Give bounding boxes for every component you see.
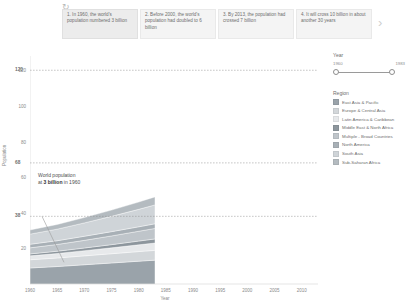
story-card[interactable]: 3. By 2013, the population had crossed 7… <box>218 9 294 39</box>
legend-swatch <box>333 116 339 122</box>
annotation-line2-suffix: in 1960 <box>62 179 80 185</box>
slider-track[interactable] <box>336 72 392 73</box>
legend-swatch <box>333 99 339 105</box>
x-tick-label: 2010 <box>292 288 312 293</box>
annotation-note: World population at 3 billion in 1960 <box>38 172 122 186</box>
story-card[interactable]: 4. It will cross 10 billion in about ano… <box>296 9 372 39</box>
x-tick-label: 1975 <box>102 288 122 293</box>
legend-item[interactable]: South Asia <box>333 151 406 157</box>
x-tick-label: 1970 <box>74 288 94 293</box>
x-tick-label: 2000 <box>237 288 257 293</box>
y-tick-label: 100 <box>8 103 26 108</box>
x-tick-label: 1990 <box>183 288 203 293</box>
plot-area <box>30 56 318 284</box>
legend-label: Middle East & North Africa <box>342 125 393 130</box>
legend-label: Multiple - Broad Countries <box>342 134 393 139</box>
legend-swatch <box>333 133 339 139</box>
slider-handle-max[interactable] <box>389 69 395 75</box>
story-card-text: 3. By 2013, the population had crossed 7… <box>223 12 285 23</box>
x-tick-label: 1980 <box>129 288 149 293</box>
y-tick-label: 20 <box>8 246 26 251</box>
legend-item[interactable]: Middle East & North Africa <box>333 125 406 131</box>
x-tick-label: 1985 <box>156 288 176 293</box>
year-range-slider[interactable]: 1960 1983 <box>333 61 406 83</box>
legend-swatch <box>333 108 339 114</box>
year-max-label: 1983 <box>395 61 405 66</box>
population-area-chart: Population World population at 3 billion… <box>0 46 330 304</box>
y-axis-title: Population <box>2 145 7 166</box>
legend-swatch <box>333 151 339 157</box>
story-card[interactable]: 2. Before 2000, the world's population h… <box>140 9 216 39</box>
chevron-right-icon[interactable]: › <box>378 16 382 29</box>
x-axis-title: Year <box>0 296 330 301</box>
legend-item[interactable]: Sub-Saharan Africa <box>333 159 406 165</box>
controls-panel: Year 1960 1983 Region East Asia & Pacifi… <box>333 52 406 168</box>
region-legend-title: Region <box>333 90 406 96</box>
y-tick-label: 80 <box>8 139 26 144</box>
legend-label: Europe & Central Asia <box>342 108 385 113</box>
annotation-line1: World population <box>38 172 75 178</box>
legend-label: East Asia & Pacific <box>342 100 379 105</box>
legend-item[interactable]: North America <box>333 142 406 148</box>
year-min-label: 1960 <box>333 61 343 66</box>
legend-label: North America <box>342 142 370 147</box>
legend-item[interactable]: Latin America & Caribbean <box>333 116 406 122</box>
legend-swatch <box>333 159 339 165</box>
x-tick-label: 1995 <box>210 288 230 293</box>
story-card-text: 2. Before 2000, the world's population h… <box>145 12 202 30</box>
legend-swatch <box>333 142 339 148</box>
x-tick-label: 1965 <box>47 288 67 293</box>
story-card-text: 1. In 1960, the world's population numbe… <box>67 12 127 23</box>
year-filter-title: Year <box>333 52 406 58</box>
legend-label: Latin America & Caribbean <box>342 117 394 122</box>
x-tick-label: 1960 <box>20 288 40 293</box>
legend-swatch <box>333 125 339 131</box>
legend-label: Sub-Saharan Africa <box>342 160 380 165</box>
legend-item[interactable]: East Asia & Pacific <box>333 99 406 105</box>
reference-line-label: 68 <box>14 160 21 165</box>
story-card[interactable]: 1. In 1960, the world's population numbe… <box>62 9 138 39</box>
story-strip: ↻ 1. In 1960, the world's population num… <box>0 0 406 44</box>
x-tick-label: 2005 <box>265 288 285 293</box>
y-tick-label: 120 <box>8 68 26 73</box>
slider-handle-min[interactable] <box>333 69 339 75</box>
story-card-text: 4. It will cross 10 billion in about ano… <box>301 12 366 23</box>
legend-item[interactable]: Multiple - Broad Countries <box>333 133 406 139</box>
legend-item[interactable]: Europe & Central Asia <box>333 108 406 114</box>
legend-label: South Asia <box>342 151 363 156</box>
y-tick-label: 60 <box>8 175 26 180</box>
y-tick-label: 40 <box>8 210 26 215</box>
annotation-line2-value: 3 billion <box>44 179 63 185</box>
region-legend: Region East Asia & PacificEurope & Centr… <box>333 90 406 165</box>
